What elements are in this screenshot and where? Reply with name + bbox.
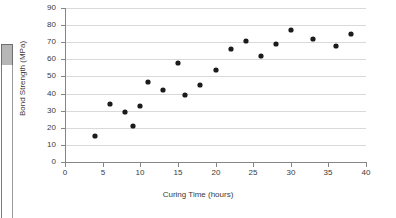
y-tick-label: 30 — [26, 107, 56, 115]
x-tick-label: 40 — [351, 169, 381, 177]
data-point — [138, 104, 142, 108]
y-tick-label: 20 — [26, 124, 56, 132]
y-tick-label: 90 — [26, 4, 56, 12]
data-point — [198, 83, 202, 87]
scatter-chart: 0102030405060708090 0510152025303540 Cur… — [0, 0, 396, 218]
gridline — [65, 25, 366, 26]
x-tick-label: 35 — [313, 169, 343, 177]
gridline — [65, 145, 366, 146]
x-tick-mark — [103, 163, 104, 167]
x-tick-mark — [140, 163, 141, 167]
x-tick-label: 20 — [201, 169, 231, 177]
x-tick-label: 30 — [276, 169, 306, 177]
x-tick-mark — [216, 163, 217, 167]
data-point — [123, 110, 127, 114]
y-axis-title: Bond Strength (MPa) — [18, 19, 27, 139]
data-point — [93, 134, 97, 138]
gridline — [65, 59, 366, 60]
data-point — [176, 61, 180, 65]
y-tick-label: 10 — [26, 141, 56, 149]
gridline — [65, 76, 366, 77]
gridline — [65, 94, 366, 95]
x-axis-line — [65, 162, 367, 163]
gridline — [65, 128, 366, 129]
data-point — [274, 42, 278, 46]
data-point — [229, 47, 233, 51]
gridline — [65, 8, 366, 9]
x-tick-label: 15 — [163, 169, 193, 177]
y-axis-line — [65, 8, 66, 163]
x-tick-mark — [178, 163, 179, 167]
x-tick-label: 5 — [88, 169, 118, 177]
x-tick-mark — [328, 163, 329, 167]
y-tick-label: 70 — [26, 38, 56, 46]
x-tick-label: 25 — [238, 169, 268, 177]
data-point — [334, 44, 338, 48]
data-point — [161, 88, 165, 92]
x-tick-label: 0 — [50, 169, 80, 177]
gridline — [65, 42, 366, 43]
data-point — [183, 93, 187, 97]
x-tick-mark — [65, 163, 66, 167]
data-point — [349, 32, 353, 36]
data-point — [108, 102, 112, 106]
y-tick-label: 80 — [26, 21, 56, 29]
screenshot-root: 0102030405060708090 0510152025303540 Cur… — [0, 0, 396, 218]
data-point — [244, 39, 248, 43]
data-point — [131, 124, 135, 128]
x-axis-title: Curing Time (hours) — [0, 190, 396, 199]
y-tick-label: 50 — [26, 72, 56, 80]
x-tick-label: 10 — [125, 169, 155, 177]
x-tick-mark — [291, 163, 292, 167]
data-point — [146, 80, 150, 84]
y-tick-label: 60 — [26, 55, 56, 63]
y-tick-label: 0 — [26, 158, 56, 166]
data-point — [214, 68, 218, 72]
y-tick-label: 40 — [26, 90, 56, 98]
data-point — [311, 37, 315, 41]
x-tick-mark — [366, 163, 367, 167]
data-point — [259, 54, 263, 58]
gridline — [65, 111, 366, 112]
data-point — [289, 28, 293, 32]
x-tick-mark — [253, 163, 254, 167]
